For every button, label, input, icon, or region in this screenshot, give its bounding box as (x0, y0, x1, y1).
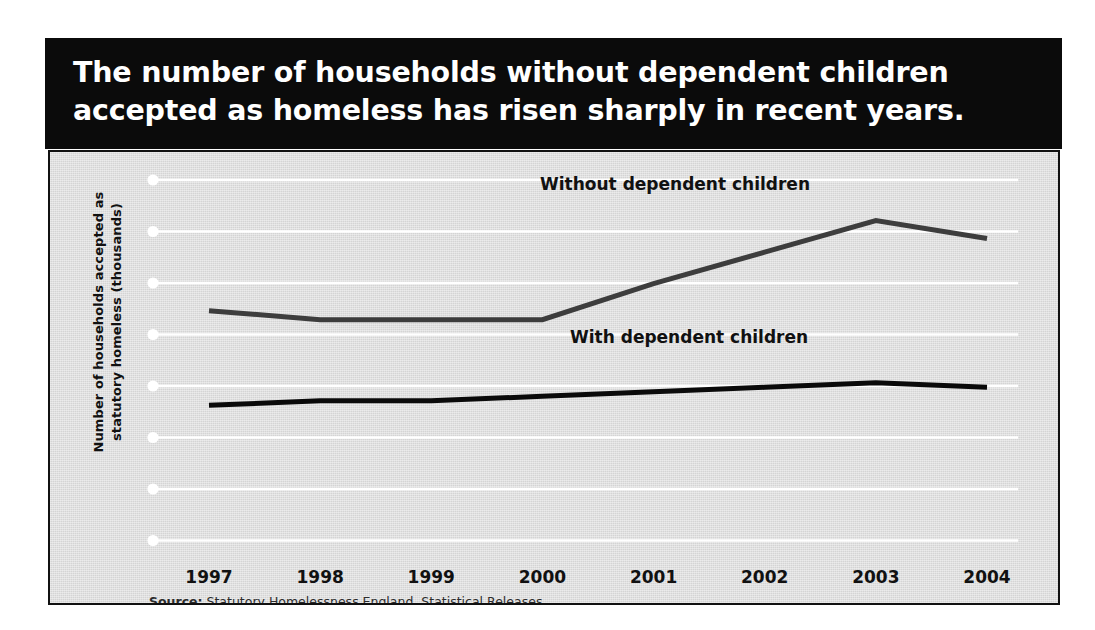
x-tick-label-1999: 1999 (386, 567, 476, 587)
gridline-dot-marker (147, 277, 158, 288)
series-label-with-dependent-children: With dependent children (570, 327, 808, 347)
x-tick-label-1998: 1998 (275, 567, 365, 587)
source-note-text: Statutory Homelessness England, Statisti… (203, 594, 543, 605)
x-tick-label-2004: 2004 (942, 567, 1032, 587)
gridline-dot-marker (147, 483, 158, 494)
chart-figure: The number of households without depende… (45, 38, 1062, 606)
gridlines-group (153, 180, 1018, 541)
source-note: Source: Statutory Homelessness England, … (149, 594, 542, 605)
x-tick-label-2003: 2003 (831, 567, 921, 587)
x-tick-label-2000: 2000 (497, 567, 587, 587)
grid-dot-markers-group (147, 174, 158, 546)
plot-canvas (50, 152, 1058, 603)
series-lines-group (209, 221, 987, 406)
x-tick-label-2001: 2001 (609, 567, 699, 587)
x-tick-label-2002: 2002 (720, 567, 810, 587)
chart-plot-area: Number of households accepted as statuto… (48, 150, 1060, 605)
x-tick-label-1997: 1997 (164, 567, 254, 587)
series-line-0 (209, 221, 987, 320)
gridline-dot-marker (147, 226, 158, 237)
chart-title-banner: The number of households without depende… (45, 38, 1062, 149)
gridline-dot-marker (147, 329, 158, 340)
gridline-dot-marker (147, 174, 158, 185)
gridline-dot-marker (147, 535, 158, 546)
gridline-dot-marker (147, 380, 158, 391)
gridline-dot-marker (147, 432, 158, 443)
source-note-prefix: Source: (149, 594, 203, 605)
series-label-without-dependent-children: Without dependent children (540, 174, 810, 194)
page-title: The number of households without depende… (73, 54, 1034, 130)
